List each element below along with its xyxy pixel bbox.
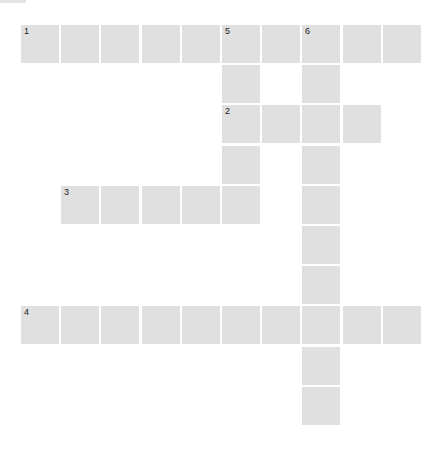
crossword-grid: 156234 [0, 0, 443, 453]
crossword-cell[interactable] [302, 226, 340, 264]
crossword-cell[interactable] [222, 306, 260, 344]
crossword-cell[interactable] [222, 186, 260, 224]
crossword-cell[interactable]: 5 [222, 25, 260, 63]
crossword-cell[interactable]: 3 [61, 186, 99, 224]
crossword-cell[interactable] [383, 25, 421, 63]
cell-letter-input[interactable] [302, 186, 340, 224]
cell-letter-input[interactable] [302, 306, 340, 344]
crossword-cell[interactable] [302, 146, 340, 184]
crossword-cell[interactable] [343, 306, 381, 344]
cell-letter-input[interactable] [302, 387, 340, 425]
crossword-cell[interactable] [343, 25, 381, 63]
cell-letter-input[interactable] [302, 266, 340, 304]
cell-letter-input[interactable] [61, 306, 99, 344]
crossword-cell[interactable] [383, 306, 421, 344]
cell-letter-input[interactable] [262, 306, 300, 344]
cell-letter-input[interactable] [343, 25, 381, 63]
crossword-cell[interactable] [142, 25, 180, 63]
cell-letter-input[interactable] [302, 65, 340, 103]
crossword-cell[interactable] [302, 65, 340, 103]
crossword-cell[interactable] [302, 306, 340, 344]
crossword-cell[interactable] [222, 65, 260, 103]
crossword-cell[interactable] [302, 387, 340, 425]
cell-letter-input[interactable] [21, 25, 59, 63]
crossword-cell[interactable] [262, 25, 300, 63]
crossword-cell[interactable] [302, 186, 340, 224]
cell-letter-input[interactable] [302, 347, 340, 385]
cell-letter-input[interactable] [182, 306, 220, 344]
crossword-cell[interactable] [142, 306, 180, 344]
cell-letter-input[interactable] [343, 306, 381, 344]
crossword-cell[interactable] [182, 186, 220, 224]
cell-letter-input[interactable] [101, 25, 139, 63]
crossword-cell[interactable] [182, 306, 220, 344]
crossword-cell[interactable] [302, 266, 340, 304]
cell-letter-input[interactable] [262, 25, 300, 63]
crossword-cell[interactable]: 6 [302, 25, 340, 63]
cell-letter-input[interactable] [142, 25, 180, 63]
crossword-cell[interactable] [61, 306, 99, 344]
crossword-cell[interactable] [343, 105, 381, 143]
crossword-cell[interactable] [302, 347, 340, 385]
crossword-cell[interactable] [262, 306, 300, 344]
cell-letter-input[interactable] [222, 306, 260, 344]
cell-letter-input[interactable] [222, 25, 260, 63]
cell-letter-input[interactable] [142, 306, 180, 344]
cell-letter-input[interactable] [61, 25, 99, 63]
crossword-cell[interactable] [101, 186, 139, 224]
cell-letter-input[interactable] [383, 306, 421, 344]
cell-letter-input[interactable] [302, 25, 340, 63]
cell-letter-input[interactable] [302, 226, 340, 264]
crossword-cell[interactable] [142, 186, 180, 224]
crossword-cell[interactable]: 2 [222, 105, 260, 143]
cell-letter-input[interactable] [222, 186, 260, 224]
cell-letter-input[interactable] [142, 186, 180, 224]
cell-letter-input[interactable] [182, 25, 220, 63]
crossword-cell[interactable] [262, 105, 300, 143]
crossword-cell[interactable]: 1 [21, 25, 59, 63]
crossword-cell[interactable] [222, 146, 260, 184]
cell-letter-input[interactable] [302, 105, 340, 143]
cell-letter-input[interactable] [222, 146, 260, 184]
cell-letter-input[interactable] [262, 105, 300, 143]
cell-letter-input[interactable] [182, 186, 220, 224]
crossword-cell[interactable] [302, 105, 340, 143]
cell-letter-input[interactable] [61, 186, 99, 224]
crossword-cell[interactable]: 4 [21, 306, 59, 344]
cell-letter-input[interactable] [21, 306, 59, 344]
crossword-cell[interactable] [101, 306, 139, 344]
cell-letter-input[interactable] [101, 186, 139, 224]
crossword-cell[interactable] [101, 25, 139, 63]
cell-letter-input[interactable] [343, 105, 381, 143]
cell-letter-input[interactable] [383, 25, 421, 63]
crossword-cell[interactable] [182, 25, 220, 63]
cell-letter-input[interactable] [222, 105, 260, 143]
cell-letter-input[interactable] [222, 65, 260, 103]
cell-letter-input[interactable] [101, 306, 139, 344]
crossword-cell[interactable] [61, 25, 99, 63]
cell-letter-input[interactable] [302, 146, 340, 184]
